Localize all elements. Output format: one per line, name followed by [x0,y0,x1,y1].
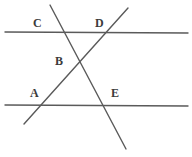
descending-transversal [50,5,126,149]
label-b: B [55,55,63,67]
label-c: C [33,17,42,29]
label-a: A [30,87,39,99]
geometry-diagram: CDBAE [0,0,192,157]
label-d: D [95,17,104,29]
bottom-parallel-line [5,105,188,106]
label-e: E [111,87,119,99]
top-parallel-line [5,32,188,33]
